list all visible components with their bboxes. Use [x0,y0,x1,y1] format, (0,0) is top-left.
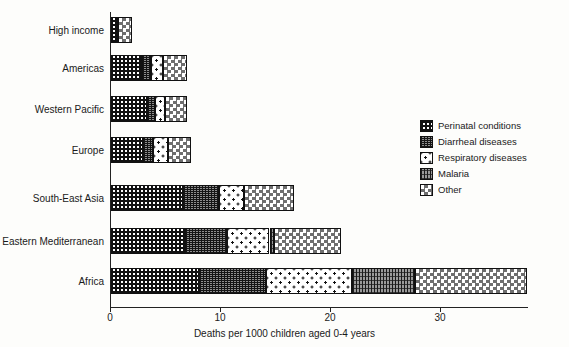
bar-segment [151,55,163,81]
bar-segment [266,268,352,294]
bar-segment [415,268,527,294]
chart-container: High incomeAmericasWestern PacificEurope… [0,0,569,347]
bar-segment [110,185,183,211]
x-axis-line [110,307,528,308]
legend-item: Other [420,182,568,197]
bar-segment [352,268,415,294]
bar-segment [110,268,199,294]
bar-segment [163,55,187,81]
legend-item-label: Malaria [438,168,469,180]
bar-segment [110,228,185,254]
bar-segment [110,96,147,122]
bar-segment [110,137,143,163]
legend-item-label: Respiratory diseases [438,152,527,164]
pattern-sparse-dots-icon [420,152,433,164]
legend-item: Perinatal conditions [420,118,568,133]
y-axis-label: High income [48,25,104,36]
bar-segment [118,17,132,43]
legend-item: Diarrheal diseases [420,134,568,149]
y-axis-label: Africa [78,276,104,287]
legend-item-label: Perinatal conditions [438,120,521,132]
x-axis-tick-label: 20 [324,312,335,323]
pattern-checkerboard-icon [420,184,433,196]
pattern-vertical-lines-icon [420,168,433,180]
bar-segment [199,268,266,294]
x-axis-tick-label: 0 [107,312,113,323]
bar-segment [147,96,155,122]
x-axis-tick-label: 30 [434,312,445,323]
legend-item: Malaria [420,166,568,181]
y-axis-line [110,12,111,307]
x-axis-tick-label: 10 [214,312,225,323]
bar-segment [185,228,227,254]
pattern-fine-crosshatch-icon [420,136,433,148]
legend: Perinatal conditionsDiarrheal diseasesRe… [420,118,568,198]
bar-segment [183,185,219,211]
legend-item-label: Diarrheal diseases [438,136,517,148]
bar-segment [244,185,294,211]
bar-segment [168,137,191,163]
bar-segment [110,55,142,81]
x-axis-title: Deaths per 1000 children aged 0-4 years [0,328,569,339]
bar-segment [165,96,187,122]
legend-item-label: Other [438,184,462,196]
bar-segment [219,185,244,211]
bar-segment [274,228,341,254]
y-axis-label: Europe [72,145,104,156]
bar-segment [227,228,270,254]
bar-segment [153,137,168,163]
y-axis-label: Americas [62,63,104,74]
y-axis-label: South-East Asia [33,193,104,204]
bar-segment [155,96,165,122]
pattern-dense-square-grid-icon [420,120,433,132]
bar-segment [110,17,118,43]
y-axis-label: Western Pacific [35,104,104,115]
bar-segment [143,137,153,163]
bar-segment [142,55,151,81]
y-axis-label: Eastern Mediterranean [2,236,104,247]
legend-item: Respiratory diseases [420,150,568,165]
